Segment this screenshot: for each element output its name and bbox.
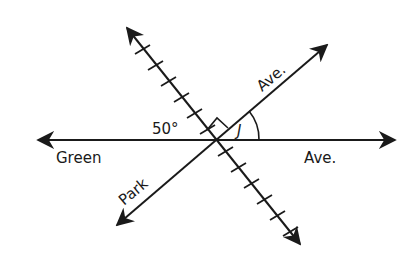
green-label: Green: [56, 149, 101, 167]
park-label: Park: [115, 174, 152, 209]
park-ave-label: Ave.: [253, 61, 289, 96]
green-ave-label: Ave.: [304, 149, 336, 167]
street-diagram: 50° J Green Ave. Park Ave.: [0, 0, 409, 264]
angle-j-arc: [249, 111, 259, 140]
angle-50-label: 50°: [152, 120, 179, 138]
park-ave-line: [117, 45, 327, 225]
